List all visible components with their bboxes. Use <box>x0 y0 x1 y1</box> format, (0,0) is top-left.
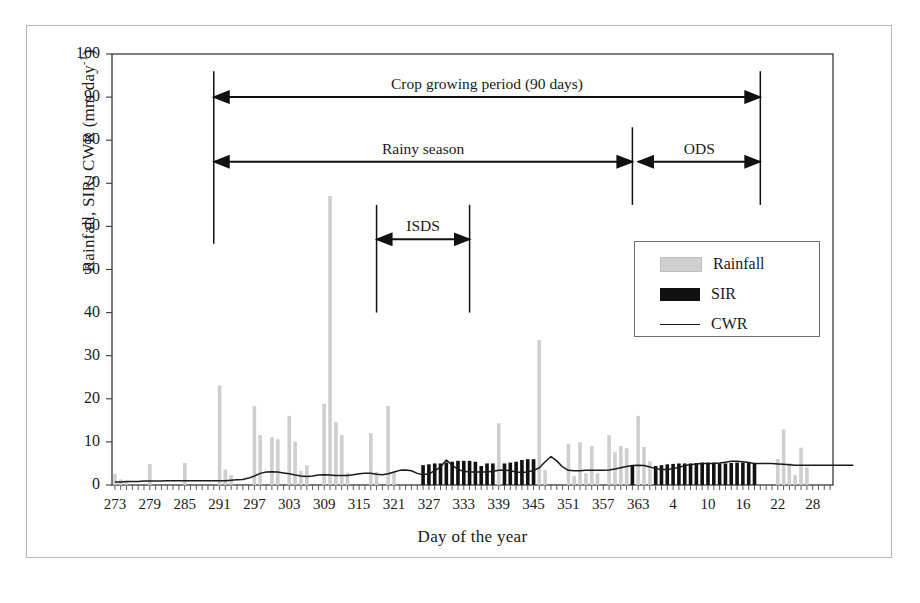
legend-item-rainfall[interactable]: Rainfall <box>660 255 765 273</box>
rainfall-bar <box>573 476 576 485</box>
chart-figure: Rainfall, SIR, CWR (mm day-1) Day of the… <box>0 0 920 603</box>
rainfall-bar <box>329 196 332 485</box>
rainfall-bar <box>369 433 372 485</box>
legend-item-cwr[interactable]: CWR <box>660 315 747 333</box>
rainfall-bar <box>270 438 273 485</box>
rainfall-bar <box>392 472 395 485</box>
rainfall-bar <box>305 466 308 485</box>
rainfall-bar <box>788 463 791 485</box>
annotation-label-rainy-season: Rainy season <box>263 140 583 158</box>
rainfall-bar <box>259 435 262 485</box>
sir-bar <box>508 463 512 485</box>
rainfall-bar <box>340 435 343 485</box>
rainfall-bar <box>125 482 128 485</box>
sir-bar <box>712 463 716 485</box>
rainfall-bar <box>224 470 227 485</box>
rainfall-bar <box>148 464 151 485</box>
legend-label: CWR <box>711 315 747 333</box>
sir-bar <box>753 463 757 485</box>
sir-bar <box>445 463 449 485</box>
rainfall-bar <box>648 462 651 485</box>
annotation-label-crop-growing-period: Crop growing period (90 days) <box>327 75 647 93</box>
legend-swatch-rainfall-icon <box>660 257 702 272</box>
rainfall-bar <box>323 404 326 485</box>
sir-bar <box>474 462 478 485</box>
rainfall-bar <box>637 416 640 485</box>
rainfall-bar <box>299 471 302 485</box>
rainfall-bar <box>590 446 593 485</box>
sir-bar <box>671 464 675 485</box>
rainfall-bar <box>619 446 622 485</box>
rainfall-bar <box>776 459 779 485</box>
rainfall-bar <box>584 474 587 485</box>
legend-swatch-sir-icon <box>660 288 700 301</box>
rainfall-bar <box>294 442 297 485</box>
legend-item-sir[interactable]: SIR <box>660 285 736 303</box>
sir-bar <box>706 463 710 485</box>
sir-bar <box>479 466 483 485</box>
legend-label: Rainfall <box>713 255 765 273</box>
rainfall-bar <box>782 430 785 485</box>
sir-bar <box>729 463 733 485</box>
rainfall-bar <box>794 476 797 485</box>
annotation-label-isds: ISDS <box>263 217 583 235</box>
sir-bar <box>689 463 693 485</box>
sir-bar <box>735 463 739 485</box>
rainfall-bar <box>579 443 582 485</box>
annotation-label-ods: ODS <box>539 140 859 158</box>
rainfall-bar <box>276 440 279 485</box>
sir-bar <box>433 463 437 485</box>
sir-bar <box>718 463 722 485</box>
sir-bar <box>724 463 728 485</box>
sir-bar <box>700 463 704 485</box>
sir-bar <box>468 461 472 485</box>
rainfall-bar <box>567 444 570 485</box>
sir-bar <box>491 463 495 485</box>
sir-bar <box>462 461 466 485</box>
sir-bar <box>660 465 664 485</box>
sir-bar <box>456 461 460 485</box>
sir-bar <box>485 463 489 485</box>
rainfall-bar <box>544 470 547 485</box>
rainfall-bar <box>596 474 599 485</box>
rainfall-bar <box>805 468 808 485</box>
sir-bar <box>747 463 751 485</box>
rainfall-bar <box>800 448 803 485</box>
rainfall-bar <box>183 463 186 485</box>
sir-bar <box>695 463 699 485</box>
sir-bar <box>514 462 518 485</box>
legend-label: SIR <box>711 285 736 303</box>
rainfall-bar <box>218 386 221 485</box>
legend-swatch-cwr-icon <box>660 324 700 325</box>
sir-bar <box>503 463 507 485</box>
sir-bar <box>631 465 635 485</box>
rainfall-bar <box>113 474 116 485</box>
rainfall-bar <box>608 435 611 485</box>
rainfall-bar <box>253 407 256 485</box>
sir-bar <box>741 463 745 485</box>
rainfall-bar <box>497 424 500 485</box>
rainfall-bar <box>538 341 541 485</box>
sir-bar <box>665 464 669 485</box>
sir-bar <box>532 459 536 485</box>
